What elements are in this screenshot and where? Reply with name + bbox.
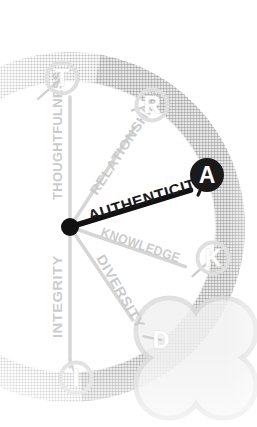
values-wheel-diagram: THOUGHTFULNESSRELATIONSHIPSAUTHENTICITYK…	[0, 0, 257, 427]
values-wheel-canvas: THOUGHTFULNESSRELATIONSHIPSAUTHENTICITYK…	[0, 0, 257, 427]
edge-fade-vertical	[0, 0, 257, 427]
